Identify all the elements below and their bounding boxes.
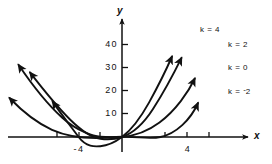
y-tick-label-10: 10 [105, 109, 118, 118]
plot-canvas [0, 0, 272, 164]
y-tick-label-20: 20 [105, 86, 118, 95]
x-tick-label-neg4: -4 [74, 145, 85, 154]
y-axis-label: y [117, 6, 123, 16]
curves-group [10, 57, 199, 147]
curve-k-neg2 [10, 98, 199, 138]
curve-label-k-2: k = 2 [228, 41, 248, 49]
curve-label-k-0: k = 0 [228, 64, 248, 72]
x-axis-label: x [254, 131, 260, 141]
y-axis-ticks [122, 45, 128, 114]
y-tick-label-40: 40 [105, 40, 118, 49]
curve-label-k-neg2-number: 2 [246, 87, 251, 96]
curve-label-k-neg2: k = -2 [228, 86, 251, 96]
y-tick-label-30: 30 [105, 63, 118, 72]
parabola-family-figure: 40 30 20 10 -4 4 y x k = 4 k = 2 k = 0 k… [0, 0, 272, 164]
x-tick-label-4: 4 [185, 145, 191, 154]
curve-label-k-4: k = 4 [200, 26, 220, 34]
curve-label-k-neg2-prefix: k = [228, 87, 243, 96]
